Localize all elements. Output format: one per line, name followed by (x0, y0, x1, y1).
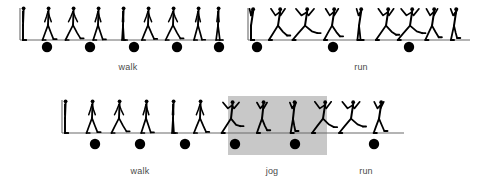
figure-leg (48, 25, 53, 39)
figure-leg (432, 26, 439, 38)
stick-figure (172, 99, 177, 133)
stick-figure (339, 100, 366, 133)
figure-leg (146, 118, 151, 132)
figure-leg (398, 26, 410, 40)
figure-leg (200, 118, 206, 132)
figure-leg (87, 118, 92, 133)
footfall-dot (85, 42, 95, 52)
figure-leg (218, 25, 220, 40)
figure-leg (269, 26, 278, 40)
stick-figure (93, 6, 106, 40)
gait-artwork (0, 0, 489, 189)
figure-arm (378, 9, 387, 16)
figure-arm (173, 104, 174, 114)
figure-leg (198, 25, 202, 40)
stick-figure (87, 99, 101, 133)
figure-leg (148, 25, 154, 39)
figure-leg (43, 25, 48, 40)
figure-leg (172, 118, 173, 133)
figure-leg (339, 119, 351, 133)
stick-figure (324, 7, 343, 40)
figure-leg (386, 26, 396, 35)
figure-leg (142, 25, 148, 40)
figure-arm (401, 9, 411, 16)
figure-leg (93, 25, 98, 40)
figure-leg (173, 25, 180, 38)
stick-figure (269, 7, 290, 40)
footfall-dot (230, 139, 240, 149)
footfall-dot (214, 42, 224, 52)
figure-arm (342, 102, 352, 109)
figure-arm (315, 102, 324, 109)
figure-leg (194, 25, 198, 40)
stick-figure (43, 6, 57, 40)
stick-figure (425, 7, 442, 40)
figure-leg (293, 26, 305, 40)
stick-figure (290, 100, 299, 133)
footfall-dot (290, 139, 300, 149)
stick-figure (451, 7, 461, 40)
figure-leg (351, 119, 363, 127)
caption-bottom-run: run (336, 166, 396, 176)
figure-leg (425, 26, 432, 40)
figure-leg (278, 26, 287, 36)
stick-figure (141, 99, 154, 133)
footfall-dot (42, 42, 52, 52)
stick-figure (374, 100, 388, 133)
footfall-dot (90, 139, 100, 149)
stick-figure (376, 7, 399, 40)
stick-figure (250, 7, 256, 40)
figure-leg (357, 26, 359, 40)
figure-leg (323, 119, 334, 128)
stick-figure (293, 7, 321, 40)
figure-leg (374, 119, 379, 133)
sequence-top-run (248, 7, 470, 52)
caption-bottom-jog: jog (242, 166, 302, 176)
caption-bottom-walk: walk (110, 166, 170, 176)
figure-leg (454, 26, 457, 38)
figure-leg (112, 118, 119, 133)
footfall-dot (404, 42, 414, 52)
figure-leg (332, 26, 340, 37)
stick-figure (66, 6, 84, 40)
figure-leg (262, 119, 267, 131)
figure-leg (231, 119, 240, 127)
figure-leg (194, 118, 200, 133)
figure-leg (66, 25, 73, 40)
stick-figure (22, 6, 27, 40)
figure-leg (119, 118, 126, 131)
caption-top-run: run (331, 62, 391, 72)
stick-figure (357, 7, 364, 40)
footfall-dot (328, 42, 338, 52)
figure-leg (324, 26, 332, 40)
stick-figure (122, 6, 127, 40)
figure-leg (451, 26, 454, 40)
stick-figure (112, 99, 130, 133)
figure-leg (141, 118, 146, 133)
figure-leg (257, 119, 262, 133)
figure-leg (312, 119, 323, 133)
figure-arm (123, 11, 124, 21)
footfall-dot (172, 42, 182, 52)
figure-leg (222, 119, 231, 133)
figure-leg (122, 25, 123, 40)
figure-leg (92, 118, 97, 132)
stick-figure (398, 7, 426, 40)
footfall-dot (252, 42, 262, 52)
caption-top-walk: walk (98, 62, 158, 72)
figure-leg (166, 25, 173, 40)
figure-arm (296, 9, 306, 16)
figure-arm (426, 9, 433, 16)
figure-arm (223, 103, 232, 109)
footfall-dot (135, 139, 145, 149)
figure-leg (98, 25, 103, 39)
figure-leg (376, 26, 386, 40)
stick-figure (166, 6, 184, 40)
figure-arm (257, 103, 263, 109)
stick-figure (64, 99, 69, 133)
figure-arm (326, 9, 334, 16)
figure-arm (271, 9, 279, 16)
sequence-top-walk (20, 6, 224, 52)
footfall-dot (129, 42, 139, 52)
figure-leg (379, 119, 384, 131)
